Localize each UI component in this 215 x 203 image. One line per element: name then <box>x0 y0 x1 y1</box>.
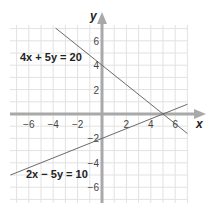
x-tick-label: 4 <box>148 119 154 130</box>
x-tick-label: 6 <box>172 119 178 130</box>
x-tick-label: −2 <box>72 119 84 130</box>
x-axis-label: x <box>195 117 204 131</box>
y-tick-label: −4 <box>88 158 100 169</box>
y-tick-label: 4 <box>93 60 99 71</box>
y-axis-label: y <box>89 9 98 23</box>
coordinate-plane: −6−4−2246642−2−4−6 y x 4x + 5y = 20 2x −… <box>0 0 215 203</box>
y-tick-label: 6 <box>93 36 99 47</box>
equation-label-2: 2x − 5y = 10 <box>26 168 88 180</box>
y-tick-label: −6 <box>88 182 100 193</box>
y-tick-label: 2 <box>93 85 99 96</box>
x-tick-label: 2 <box>124 119 130 130</box>
y-tick-label: −2 <box>88 133 100 144</box>
x-tick-label: −4 <box>47 119 59 130</box>
y-axis-arrow-icon <box>97 12 107 24</box>
x-tick-label: −6 <box>23 119 35 130</box>
line-series-1 <box>56 28 188 133</box>
equation-label-1: 4x + 5y = 20 <box>20 51 82 63</box>
